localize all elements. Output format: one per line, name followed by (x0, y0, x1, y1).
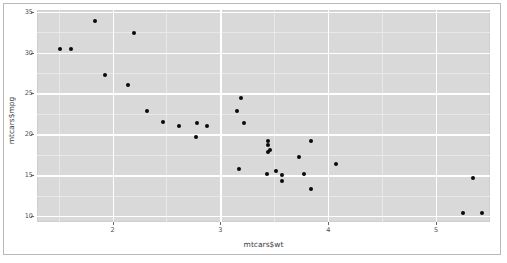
data-point (195, 121, 199, 125)
x-tick-mark (436, 222, 437, 225)
x-tick-label: 4 (326, 226, 330, 234)
data-point (126, 83, 130, 87)
x-tick-mark (113, 222, 114, 225)
x-tick-label: 2 (110, 226, 114, 234)
data-point (309, 139, 313, 143)
data-point (103, 73, 107, 77)
y-tick-mark (31, 12, 34, 13)
x-tick-mark (328, 222, 329, 225)
data-point (266, 143, 270, 147)
y-axis-title: mtcars$mpg (7, 66, 16, 176)
data-point (302, 172, 306, 176)
data-point (177, 124, 181, 128)
data-point (280, 179, 284, 183)
y-tick-mark (31, 53, 34, 54)
y-tick-mark (31, 134, 34, 135)
data-point (237, 167, 241, 171)
data-point (280, 173, 284, 177)
data-point (235, 109, 239, 113)
y-tick-mark (31, 175, 34, 176)
y-tick-mark (31, 93, 34, 94)
x-tick-label: 3 (218, 226, 222, 234)
data-point (194, 135, 198, 139)
data-point (132, 31, 136, 35)
data-point (309, 187, 313, 191)
data-point (334, 162, 338, 166)
data-point (480, 211, 484, 215)
y-tick-mark (31, 216, 34, 217)
data-point (239, 96, 243, 100)
x-axis-title: mtcars$wt (37, 240, 490, 249)
scatter-plot: mtcars$wt mtcars$mpg 1015202530352345 (0, 0, 507, 263)
data-point (58, 47, 62, 51)
data-point (242, 121, 246, 125)
data-points-layer (37, 10, 490, 222)
data-point (266, 150, 270, 154)
x-tick-label: 5 (434, 226, 438, 234)
data-point (265, 172, 269, 176)
data-point (161, 120, 165, 124)
data-point (274, 169, 278, 173)
data-point (471, 176, 475, 180)
data-point (145, 109, 149, 113)
data-point (93, 19, 97, 23)
data-point (205, 124, 209, 128)
data-point (69, 47, 73, 51)
x-tick-mark (220, 222, 221, 225)
data-point (297, 155, 301, 159)
data-point (266, 139, 270, 143)
data-point (461, 211, 465, 215)
